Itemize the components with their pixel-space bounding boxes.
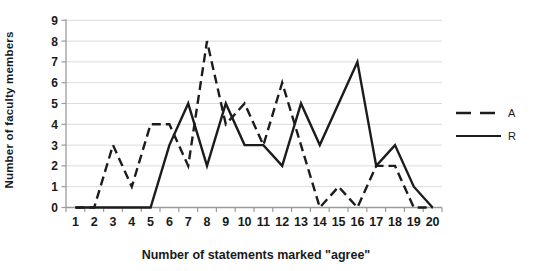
legend-solid-line-icon [455,129,505,143]
legend-label-r: R [508,129,516,143]
x-tick-label: 7 [185,215,192,229]
legend-label-a: A [508,106,515,120]
x-tick-label: 12 [275,215,289,229]
x-tick-label: 9 [222,215,229,229]
y-axis-title: Number of faculty members [3,5,15,215]
x-tick-label: 10 [238,215,252,229]
legend: A R [455,106,516,143]
x-tick-label: 18 [388,215,402,229]
y-tick-label: 2 [51,159,58,173]
x-tick-label: 11 [257,215,270,229]
y-tick-label: 9 [51,14,58,28]
y-tick-label: 5 [51,97,58,111]
x-tick-label: 14 [313,215,327,229]
x-axis-title: Number of statements marked "agree" [66,248,446,262]
x-tick-label: 1 [72,215,79,229]
x-tick-label: 20 [426,215,440,229]
x-tick-label: 5 [147,215,154,229]
x-tick-label: 16 [350,215,364,229]
x-tick-label: 3 [110,215,117,229]
y-tick-label: 6 [51,76,58,90]
x-tick-label: 19 [407,215,421,229]
series-line-r [75,62,432,208]
y-tick-label: 8 [51,35,58,49]
y-tick-label: 7 [51,55,58,69]
y-tick-label: 1 [51,180,58,194]
y-tick-label: 3 [51,139,58,153]
chart-figure: 0123456789123456789101112131415161718192… [0,0,537,271]
x-tick-label: 15 [332,215,346,229]
legend-dashed-line-icon [455,106,505,120]
x-tick-label: 6 [166,215,173,229]
y-tick-label: 0 [51,201,58,215]
y-tick-label: 4 [51,118,58,132]
x-tick-label: 8 [204,215,211,229]
legend-item-a: A [455,106,516,120]
x-tick-label: 2 [91,215,98,229]
x-tick-label: 13 [294,215,308,229]
legend-item-r: R [455,129,516,143]
x-tick-label: 17 [369,215,383,229]
x-tick-label: 4 [128,215,135,229]
